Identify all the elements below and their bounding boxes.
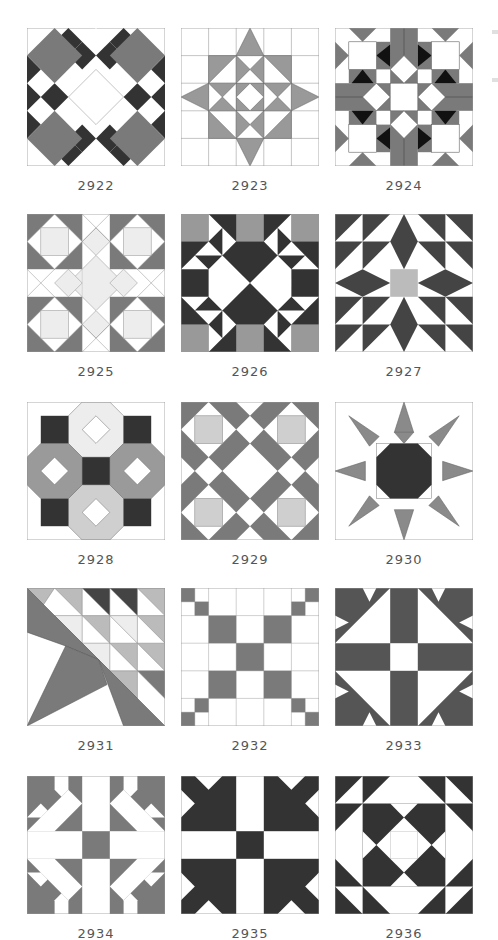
quilt-block-2935: 2935 [181, 776, 319, 940]
quilt-block-2923-image [181, 28, 319, 166]
quilt-block-2931-image [27, 588, 165, 726]
quilt-block-2932-image [181, 588, 319, 726]
block-number-label: 2922 [27, 178, 165, 193]
quilt-block-2922: 2922 [27, 28, 165, 193]
quilt-block-2924-image [335, 28, 473, 166]
quilt-block-2926-image [181, 214, 319, 352]
quilt-block-2932: 2932 [181, 588, 319, 753]
page-edge-mark [492, 30, 498, 34]
block-number-label: 2924 [335, 178, 473, 193]
page-edge-mark [492, 78, 498, 82]
quilt-block-2929: 2929 [181, 402, 319, 567]
block-number-label: 2923 [181, 178, 319, 193]
quilt-block-2927-image [335, 214, 473, 352]
block-number-label: 2934 [27, 926, 165, 940]
quilt-block-2928: 2928 [27, 402, 165, 567]
quilt-block-2934: 2934 [27, 776, 165, 940]
quilt-block-2930: 2930 [335, 402, 473, 567]
quilt-block-2927: 2927 [335, 214, 473, 379]
quilt-block-2933-image [335, 588, 473, 726]
block-number-label: 2929 [181, 552, 319, 567]
quilt-block-2929-image [181, 402, 319, 540]
quilt-block-2935-image [181, 776, 319, 914]
quilt-block-2931: 2931 [27, 588, 165, 753]
block-number-label: 2933 [335, 738, 473, 753]
quilt-block-2934-image [27, 776, 165, 914]
quilt-block-2928-image [27, 402, 165, 540]
block-number-label: 2930 [335, 552, 473, 567]
quilt-block-2924: 2924 [335, 28, 473, 193]
block-number-label: 2931 [27, 738, 165, 753]
block-number-label: 2932 [181, 738, 319, 753]
quilt-block-2936-image [335, 776, 473, 914]
quilt-block-2922-image [27, 28, 165, 166]
quilt-block-2930-image [335, 402, 473, 540]
quilt-block-2926: 2926 [181, 214, 319, 379]
quilt-block-2923: 2923 [181, 28, 319, 193]
block-number-label: 2927 [335, 364, 473, 379]
quilt-block-2933: 2933 [335, 588, 473, 753]
block-number-label: 2925 [27, 364, 165, 379]
quilt-block-2925-image [27, 214, 165, 352]
block-number-label: 2926 [181, 364, 319, 379]
quilt-block-2925: 2925 [27, 214, 165, 379]
block-number-label: 2928 [27, 552, 165, 567]
quilt-block-2936: 2936 [335, 776, 473, 940]
block-number-label: 2936 [335, 926, 473, 940]
block-number-label: 2935 [181, 926, 319, 940]
